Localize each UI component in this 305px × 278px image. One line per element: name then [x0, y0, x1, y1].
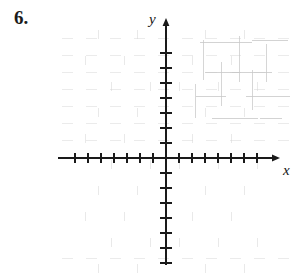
worksheet-page: 6. y x [0, 0, 305, 278]
y-axis-label: y [149, 12, 156, 27]
coordinate-plane-figure [0, 0, 305, 278]
coordinate-plane-svg [0, 0, 305, 278]
x-axis-label: x [283, 163, 290, 178]
grid-artifact-marks [62, 30, 290, 273]
